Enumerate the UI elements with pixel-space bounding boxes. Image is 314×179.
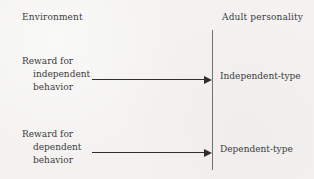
arrow-independent <box>92 76 212 84</box>
cause-line-3: behavior <box>22 154 81 167</box>
cause-line-2: independent <box>22 68 90 81</box>
cause-line-1: Reward for <box>22 128 81 141</box>
cause-line-1: Reward for <box>22 55 90 68</box>
effect-label-dependent-type: Dependent-type <box>220 143 293 156</box>
arrow-shaft <box>92 79 205 80</box>
vertical-divider-line <box>212 30 213 170</box>
arrowhead-icon <box>204 76 212 84</box>
cause-label-dependent: Reward for dependent behavior <box>22 128 81 167</box>
column-header-adult-personality: Adult personality <box>222 12 303 23</box>
column-header-environment: Environment <box>22 12 83 23</box>
cause-line-2: dependent <box>22 141 81 154</box>
arrow-shaft <box>92 152 205 153</box>
cause-label-independent: Reward for independent behavior <box>22 55 90 94</box>
diagram-canvas: Environment Adult personality Reward for… <box>0 0 314 179</box>
arrowhead-icon <box>204 149 212 157</box>
arrow-dependent <box>92 149 212 157</box>
cause-line-3: behavior <box>22 81 90 94</box>
effect-label-independent-type: Independent-type <box>220 70 301 83</box>
